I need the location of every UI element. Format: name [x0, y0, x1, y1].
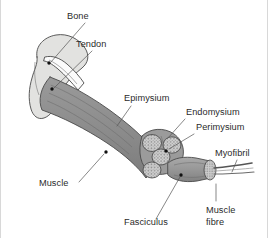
label-muscle: Muscle — [39, 178, 68, 188]
muscle-anatomy-diagram: Bone Tendon Epimysium Endomysium Perimys… — [0, 0, 268, 238]
muscle-fibre-cut-face — [204, 160, 216, 180]
label-fasciculus: Fasciculus — [124, 217, 168, 227]
label-muscle-fibre-line2: fibre — [206, 217, 224, 227]
diagram-background — [0, 0, 268, 238]
diagram-canvas: Bone Tendon Epimysium Endomysium Perimys… — [0, 0, 268, 238]
label-myofibril: Myofibril — [215, 148, 250, 158]
leader-dot-fasciculus — [179, 173, 182, 176]
leader-dot-tendon — [50, 87, 53, 90]
label-perimysium: Perimysium — [196, 122, 245, 132]
label-tendon: Tendon — [76, 39, 106, 49]
leader-dot-perimysium — [164, 149, 167, 152]
label-epimysium: Epimysium — [124, 93, 170, 103]
fascicle-face-bottom — [143, 162, 161, 178]
label-muscle-fibre-line1: Muscle — [206, 205, 235, 215]
muscle-fibre-cylinder — [168, 157, 216, 181]
leader-dot-muscle — [104, 150, 107, 153]
label-bone: Bone — [67, 11, 89, 21]
leader-dot-bone — [47, 61, 50, 64]
label-endomysium: Endomysium — [186, 107, 240, 117]
